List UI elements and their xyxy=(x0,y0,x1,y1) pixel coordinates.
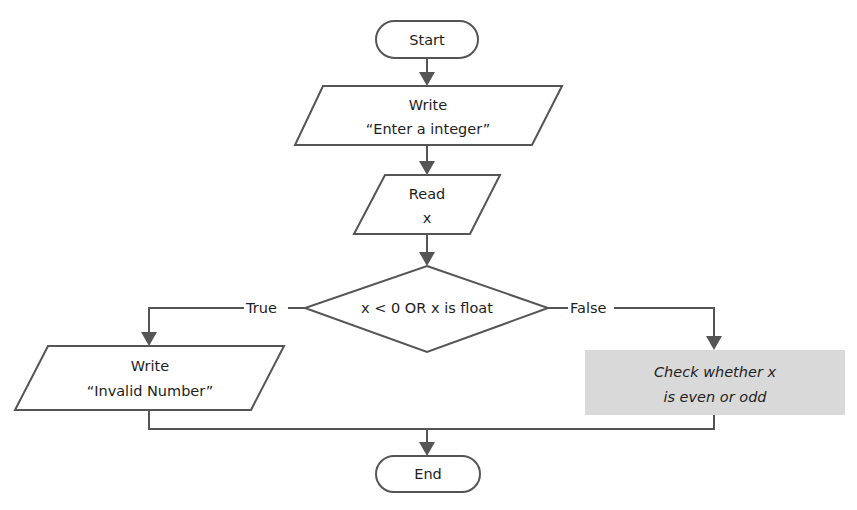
node-check-parity-line1: Check whether x xyxy=(654,364,777,380)
node-write-invalid: Write “Invalid Number” xyxy=(15,346,284,410)
node-decision-label: x < 0 OR x is float xyxy=(361,300,493,316)
node-decision: x < 0 OR x is float xyxy=(305,266,548,352)
flowchart: True False Start Write “Enter a integer”… xyxy=(0,0,857,510)
node-end: End xyxy=(376,456,480,492)
edge-label-true: True xyxy=(245,300,277,316)
io-parallelogram-shape xyxy=(15,346,284,410)
node-start: Start xyxy=(376,21,478,58)
node-start-label: Start xyxy=(409,32,445,48)
node-write-prompt-line1: Write xyxy=(409,97,447,113)
node-read-x-line2: x xyxy=(423,210,432,226)
arrowhead-icon xyxy=(419,72,435,86)
node-check-parity: Check whether x is even or odd xyxy=(585,350,845,415)
process-shape xyxy=(585,350,845,415)
node-write-invalid-line1: Write xyxy=(131,358,169,374)
arrowhead-icon xyxy=(706,336,722,350)
arrowhead-icon xyxy=(419,161,435,175)
node-write-invalid-line2: “Invalid Number” xyxy=(87,383,214,399)
node-write-prompt-line2: “Enter a integer” xyxy=(366,121,491,137)
node-write-prompt: Write “Enter a integer” xyxy=(295,86,562,145)
connector-true-branch-down xyxy=(149,308,244,336)
arrowhead-icon xyxy=(141,332,157,346)
edge-label-false: False xyxy=(570,300,606,316)
connector-false-branch-down xyxy=(614,308,714,340)
node-read-x: Read x xyxy=(354,175,500,234)
node-read-x-line1: Read xyxy=(409,186,445,202)
arrowhead-icon xyxy=(419,442,435,456)
node-end-label: End xyxy=(414,466,442,482)
arrowhead-icon xyxy=(419,252,435,266)
node-check-parity-line2: is even or odd xyxy=(663,389,767,405)
